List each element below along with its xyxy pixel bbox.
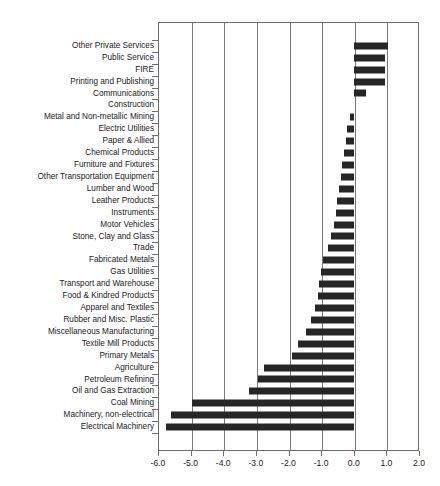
bar: [292, 352, 354, 359]
y-axis-tick: [152, 135, 158, 136]
y-axis-tick: [152, 207, 158, 208]
bar-row: [158, 159, 419, 171]
category-labels: Other Private ServicesPublic ServiceFIRE…: [0, 22, 154, 451]
category-label: Oil and Gas Extraction: [0, 385, 160, 397]
category-label: Chemical Products: [0, 147, 160, 159]
bar: [344, 150, 354, 157]
category-label: Rubber and Misc. Plastic: [0, 314, 160, 326]
y-axis-tick: [152, 350, 158, 351]
y-axis-tick: [152, 254, 158, 255]
x-axis-tick: [289, 451, 290, 456]
bar: [347, 126, 354, 133]
bar: [249, 388, 353, 395]
x-axis-tick: [386, 451, 387, 456]
bar-row: [158, 397, 419, 409]
category-label: Food & Kindred Products: [0, 290, 160, 302]
y-axis-tick: [152, 64, 158, 65]
bar-row: [158, 421, 419, 433]
bar-row: [158, 219, 419, 231]
bar-row: [158, 254, 419, 266]
x-axis-tick-label: 2.0: [399, 458, 439, 468]
category-label: Other Private Services: [0, 40, 160, 52]
bar-row: [158, 374, 419, 386]
bar: [336, 209, 354, 216]
category-label: Furniture and Fixtures: [0, 159, 160, 171]
category-label: Other Transportation Equipment: [0, 171, 160, 183]
y-axis-tick: [152, 183, 158, 184]
category-label: Trade: [0, 242, 160, 254]
category-label: Petroleum Refining: [0, 374, 160, 386]
bar: [264, 364, 354, 371]
y-axis-tick: [152, 409, 158, 410]
category-label: Electric Utilities: [0, 123, 160, 135]
y-axis-tick: [152, 397, 158, 398]
bar: [315, 304, 354, 311]
bar: [319, 281, 353, 288]
y-axis-tick: [152, 374, 158, 375]
y-axis-tick: [152, 171, 158, 172]
category-label: Fabricated Metals: [0, 254, 160, 266]
category-label: Coal Mining: [0, 397, 160, 409]
category-label: Leather Products: [0, 195, 160, 207]
figure: Other Private ServicesPublic ServiceFIRE…: [0, 0, 440, 486]
bar-row: [158, 183, 419, 195]
category-label: Printing and Publishing: [0, 76, 160, 88]
y-axis-tick: [152, 433, 158, 434]
bars-layer: [158, 22, 419, 451]
bar: [166, 424, 354, 431]
bar: [298, 340, 353, 347]
category-label: Transport and Warehouse: [0, 278, 160, 290]
bar-row: [158, 99, 419, 111]
bar: [311, 316, 353, 323]
bar-row: [158, 207, 419, 219]
y-axis-tick: [152, 290, 158, 291]
bar: [350, 114, 353, 121]
bar: [171, 412, 354, 419]
bar-row: [158, 231, 419, 243]
bar: [354, 90, 366, 97]
bar: [337, 197, 353, 204]
bar: [258, 376, 354, 383]
category-label: Miscellaneous Manufacturing: [0, 326, 160, 338]
x-axis-tick: [419, 451, 420, 456]
y-axis-tick: [152, 385, 158, 386]
figure-caption: [42, 478, 402, 486]
bar: [318, 293, 354, 300]
y-axis-tick: [152, 242, 158, 243]
bar-row: [158, 88, 419, 100]
category-label: Lumber and Wood: [0, 183, 160, 195]
y-axis-tick: [152, 147, 158, 148]
bar-row: [158, 338, 419, 350]
category-label: Motor Vehicles: [0, 219, 160, 231]
category-label: Stone, Clay and Glass: [0, 231, 160, 243]
x-axis-tick: [321, 451, 322, 456]
category-label: Apparel and Textiles: [0, 302, 160, 314]
y-axis-tick: [152, 76, 158, 77]
bar-row: [158, 290, 419, 302]
bar-row: [158, 242, 419, 254]
y-axis-tick: [152, 111, 158, 112]
bar-row: [158, 171, 419, 183]
category-label: Communications: [0, 88, 160, 100]
bar-row: [158, 409, 419, 421]
bar-row: [158, 195, 419, 207]
bar-row: [158, 266, 419, 278]
bar: [321, 269, 354, 276]
category-label: Instruments: [0, 207, 160, 219]
x-axis-tick: [256, 451, 257, 456]
x-axis-tick: [354, 451, 355, 456]
y-axis-tick: [152, 40, 158, 41]
bar-row: [158, 76, 419, 88]
bar-row: [158, 385, 419, 397]
bar-row: [158, 123, 419, 135]
category-label: Machinery, non-electrical: [0, 409, 160, 421]
bar: [346, 138, 354, 145]
bar: [192, 400, 353, 407]
category-label: Textile Mill Products: [0, 338, 160, 350]
x-axis-tick: [158, 451, 159, 456]
y-axis-tick: [152, 195, 158, 196]
y-axis-tick: [152, 99, 158, 100]
bar: [354, 54, 385, 61]
bar-row: [158, 135, 419, 147]
bar-row: [158, 362, 419, 374]
